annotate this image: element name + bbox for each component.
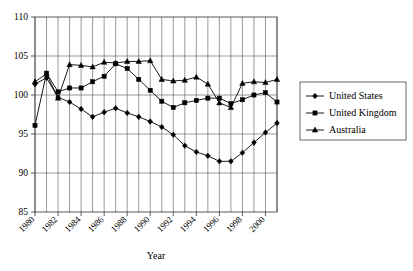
- legend-label: Australia: [329, 124, 366, 135]
- data-point-marker: [274, 77, 279, 82]
- data-point-marker: [194, 149, 199, 155]
- data-point-marker: [159, 124, 164, 130]
- legend-sample-marker: [313, 111, 317, 115]
- data-point-marker: [205, 153, 210, 159]
- data-point-marker: [275, 120, 280, 126]
- series-line: [35, 78, 277, 161]
- y-tick-label: 100: [14, 90, 29, 100]
- legend-label: United Kingdom: [329, 107, 397, 118]
- data-point-marker: [194, 74, 199, 79]
- data-point-marker: [205, 81, 210, 86]
- data-point-marker: [79, 86, 83, 90]
- x-axis-ticks: 1980198219841986198819901992199419961998…: [17, 212, 268, 234]
- data-point-marker: [171, 105, 175, 109]
- x-tick-label: 1988: [109, 214, 129, 234]
- y-tick-label: 105: [14, 51, 29, 61]
- x-tick-label: 1998: [224, 214, 244, 234]
- data-point-marker: [252, 93, 256, 97]
- data-point-marker: [217, 100, 222, 105]
- data-point-marker: [206, 96, 210, 100]
- x-tick-label: 1990: [132, 214, 152, 234]
- data-point-marker: [136, 114, 141, 120]
- plot-frame: [35, 17, 277, 212]
- data-point-marker: [217, 159, 222, 165]
- data-point-marker: [183, 101, 187, 105]
- data-point-marker: [101, 59, 106, 64]
- data-point-marker: [148, 88, 152, 92]
- data-point-marker: [125, 66, 129, 70]
- x-tick-label: 1984: [63, 214, 83, 234]
- x-tick-label: 1996: [201, 214, 221, 234]
- horizontal-gridlines: [35, 56, 277, 173]
- data-point-marker: [159, 77, 164, 82]
- legend-label: United States: [329, 90, 383, 101]
- y-axis-ticks: 859095100105110: [14, 12, 35, 217]
- data-point-marker: [67, 86, 71, 90]
- vertical-gridlines: [35, 17, 277, 212]
- data-point-marker: [148, 58, 153, 63]
- y-tick-label: 95: [19, 129, 29, 139]
- data-point-marker: [67, 62, 72, 67]
- data-point-marker: [137, 77, 141, 81]
- x-tick-label: 1992: [155, 214, 175, 234]
- data-point-marker: [240, 98, 244, 102]
- data-point-marker: [79, 106, 84, 112]
- chart-legend: United StatesUnited KingdomAustralia: [300, 82, 406, 140]
- data-point-marker: [90, 114, 95, 120]
- data-point-marker: [32, 79, 37, 84]
- data-point-marker: [125, 110, 130, 116]
- x-tick-label: 1982: [40, 214, 60, 234]
- data-point-marker: [102, 74, 106, 78]
- line-chart: 859095100105110 198019821984198619881990…: [0, 0, 413, 271]
- x-tick-label: 1986: [86, 214, 106, 234]
- chart-container: 859095100105110 198019821984198619881990…: [0, 0, 413, 271]
- data-point-marker: [251, 79, 256, 84]
- data-point-marker: [102, 109, 107, 115]
- x-tick-label: 1994: [178, 214, 198, 234]
- data-point-marker: [263, 91, 267, 95]
- x-tick-label: 2000: [247, 214, 267, 234]
- series-line: [35, 64, 277, 126]
- data-point-marker: [160, 99, 164, 103]
- data-point-marker: [148, 119, 153, 125]
- y-tick-label: 90: [19, 168, 29, 178]
- data-point-marker: [91, 80, 95, 84]
- data-point-marker: [275, 100, 279, 104]
- data-point-marker: [194, 98, 198, 102]
- data-point-marker: [33, 123, 37, 127]
- data-point-marker: [229, 159, 234, 165]
- y-tick-label: 110: [14, 12, 28, 22]
- data-point-marker: [67, 99, 72, 105]
- data-point-marker: [113, 105, 118, 111]
- x-axis-title: Year: [147, 250, 166, 261]
